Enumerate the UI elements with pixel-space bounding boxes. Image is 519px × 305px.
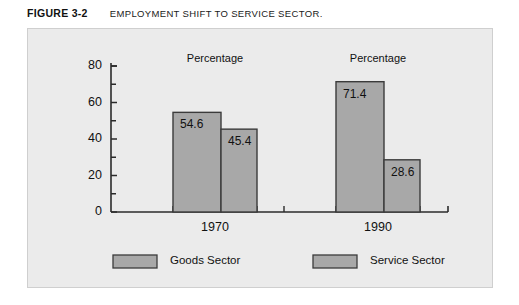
y-axis-tick-label-40: 40 bbox=[78, 131, 102, 145]
x-axis-category-label-1970: 1970 bbox=[185, 220, 245, 234]
group-annotation-1970: Percentage bbox=[185, 52, 245, 64]
x-axis-category-label-1990: 1990 bbox=[348, 220, 408, 234]
bars-layer bbox=[173, 82, 420, 212]
legend-swatch-service-sector bbox=[313, 255, 357, 268]
legend-label-service-sector: Service Sector bbox=[370, 254, 445, 266]
legend-label-goods-sector: Goods Sector bbox=[170, 254, 240, 266]
legend-swatch-goods-sector bbox=[113, 255, 157, 268]
group-annotation-1990: Percentage bbox=[348, 52, 408, 64]
bar-1990-goods-sector bbox=[336, 82, 384, 212]
figure-title: EMPLOYMENT SHIFT TO SERVICE SECTOR. bbox=[110, 8, 323, 19]
bar-value-label-1990-0: 71.4 bbox=[343, 87, 366, 101]
figure-number: FIGURE 3-2 bbox=[27, 7, 88, 19]
y-axis-tick-label-60: 60 bbox=[78, 95, 102, 109]
bar-value-label-1970-0: 54.6 bbox=[180, 117, 203, 131]
bar-value-label-1970-1: 45.4 bbox=[228, 134, 251, 148]
y-axis-tick-label-20: 20 bbox=[78, 168, 102, 182]
figure-panel: 02040608054.645.4Percentage197071.428.6P… bbox=[27, 28, 493, 288]
bar-value-label-1990-1: 28.6 bbox=[391, 165, 414, 179]
y-axis-tick-label-0: 0 bbox=[78, 204, 102, 218]
y-axis-tick-label-80: 80 bbox=[78, 58, 102, 72]
figure-caption: FIGURE 3-2 EMPLOYMENT SHIFT TO SERVICE S… bbox=[27, 7, 323, 19]
